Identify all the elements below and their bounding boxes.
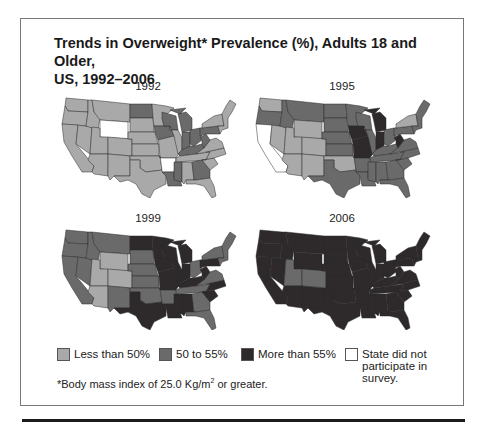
state-wy [100,252,128,271]
legend-label: More than 55% [258,348,336,361]
state-sd [130,118,154,132]
state-ks [326,276,353,288]
state-ar [354,156,370,172]
legend-swatch-high [241,348,254,361]
map-1995: 1995 [252,80,432,200]
state-ks [132,144,159,156]
legend-label: State did not participate in survey. [362,348,432,384]
state-ms [368,162,376,182]
map-year-label: 1999 [58,212,238,224]
footnote: *Body mass index of 25.0 Kg/m2 or greate… [57,377,268,390]
map-year-label: 2006 [252,212,432,224]
state-nd [130,104,153,118]
map-year-label: 1995 [252,80,432,92]
legend-item-high: More than 55% [241,348,336,361]
state-sd [130,250,154,264]
state-fl [380,178,410,198]
state-sd [324,118,348,132]
state-fl [380,310,410,330]
state-wa [259,98,282,112]
state-ks [326,144,353,156]
legend-swatch-low [57,348,70,361]
state-ks [132,276,159,288]
state-ar [354,288,370,304]
state-nd [324,236,347,250]
state-co [302,137,326,156]
map-1999: 1999 [58,212,238,332]
state-nd [130,236,153,250]
legend-item-low: Less than 50% [57,348,150,361]
state-ar [160,288,176,304]
legend-label: Less than 50% [74,348,150,361]
state-wy [294,252,322,271]
state-ms [368,294,376,314]
state-ms [174,162,182,182]
state-wy [294,120,322,139]
us-map [58,226,238,330]
map-year-label: 1992 [58,80,238,92]
legend-swatch-none [345,348,358,361]
state-wa [65,230,88,244]
state-fl [186,178,216,198]
state-wa [259,230,282,244]
map-1992: 1992 [58,80,238,200]
us-map [252,94,432,198]
state-co [302,269,326,288]
footnote-text-end: or greater. [214,378,267,390]
bottom-rule [22,419,465,422]
map-2006: 2006 [252,212,432,332]
state-sd [324,250,348,264]
state-ne [128,132,158,144]
state-fl [186,310,216,330]
title-line-1: Trends in Overweight* Prevalence (%), Ad… [54,34,454,70]
state-ms [174,294,182,314]
state-co [108,269,132,288]
legend-item-none: State did not participate in survey. [345,348,432,384]
state-wy [100,120,128,139]
legend-label: 50 to 55% [176,348,228,361]
footnote-text: *Body mass index of 25.0 Kg/m [57,378,210,390]
state-ar [160,156,176,172]
state-co [108,137,132,156]
legend-item-mid: 50 to 55% [159,348,228,361]
state-ne [322,264,352,276]
state-ne [128,264,158,276]
state-ne [322,132,352,144]
state-wa [65,98,88,112]
legend-swatch-mid [159,348,172,361]
us-map [252,226,432,330]
state-nd [324,104,347,118]
us-map [58,94,238,198]
